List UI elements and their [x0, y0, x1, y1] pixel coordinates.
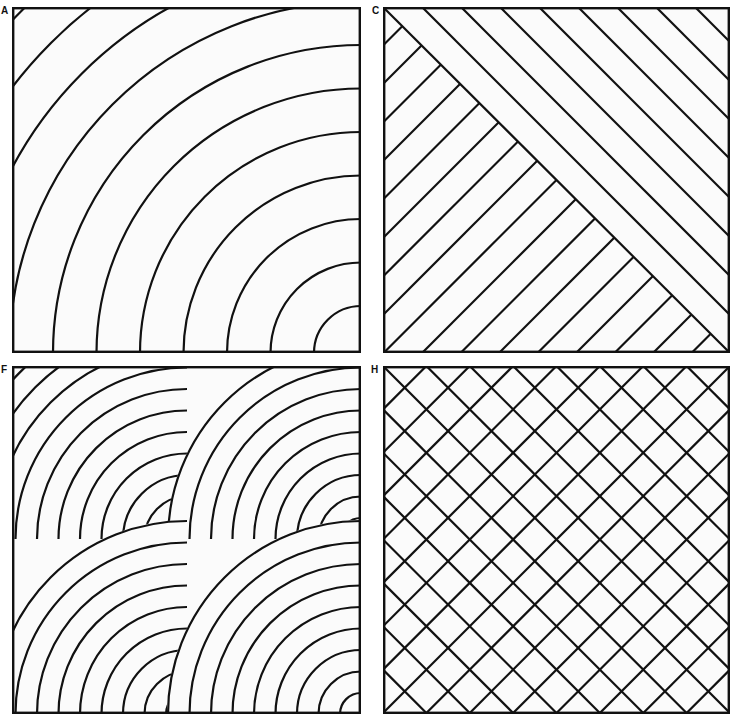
panel-c-herringbone-lines: [383, 7, 730, 353]
lower-diagonal-line: [383, 84, 460, 161]
scale-set-bottom-left-mask: [12, 520, 187, 714]
lower-diagonal-line: [383, 142, 518, 277]
lower-diagonal-line: [461, 219, 595, 353]
lower-diagonal-line: [384, 180, 557, 353]
arc-line: [53, 45, 361, 353]
crosshatch-line-up: [383, 366, 600, 714]
lower-diagonal-line: [383, 46, 422, 85]
arc-line: [314, 306, 361, 353]
arc-line: [97, 89, 362, 354]
lower-diagonal-line: [383, 123, 499, 239]
crosshatch-line-up: [383, 366, 513, 714]
arc-line: [12, 7, 361, 353]
crosshatch-line-down: [383, 366, 601, 714]
panel-f-scale-arcs: [12, 366, 361, 714]
panel-h-crosshatch: [383, 366, 730, 714]
lower-diagonal-line: [383, 103, 479, 199]
panel-c-label: C: [372, 6, 379, 16]
panel-border: [13, 8, 360, 352]
panel-f-label: F: [1, 365, 7, 375]
panel-h-label: H: [371, 365, 378, 375]
scale-set-bottom-right-mask: [167, 520, 361, 714]
crosshatch-line-down: [383, 366, 514, 714]
arc-line: [12, 7, 361, 353]
crosshatch-line-up: [599, 366, 730, 714]
lower-diagonal-line: [576, 277, 653, 354]
crosshatch-line-up: [383, 366, 687, 714]
lower-diagonal-line: [383, 26, 402, 45]
crosshatch-line-up: [512, 366, 730, 714]
crosshatch-line-down: [426, 366, 730, 714]
panel-a-concentric-arcs: [12, 7, 361, 353]
arc-line: [12, 7, 361, 353]
lower-diagonal-line: [383, 161, 537, 315]
lower-diagonal-line: [653, 315, 691, 353]
crosshatch-line-down: [600, 366, 730, 714]
lower-diagonal-line: [422, 200, 576, 354]
upper-diagonal-line: [656, 7, 730, 81]
arc-line: [184, 176, 362, 354]
lower-diagonal-line: [499, 238, 614, 353]
panel-a-label: A: [1, 6, 8, 16]
lower-diagonal-line: [383, 65, 441, 123]
upper-diagonal-line: [578, 7, 730, 159]
lower-diagonal-line: [692, 334, 711, 353]
arc-line: [12, 7, 361, 353]
upper-diagonal-line: [695, 7, 730, 42]
lower-diagonal-line: [538, 257, 634, 353]
upper-diagonal-line: [539, 7, 730, 198]
arc-line: [227, 219, 361, 353]
lower-diagonal-line: [615, 296, 672, 353]
arc-line: [12, 7, 361, 353]
crosshatch-line-down: [513, 366, 730, 714]
